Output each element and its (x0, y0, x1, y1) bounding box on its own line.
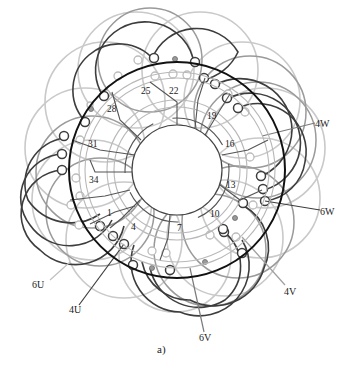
slot-label-34: 34 (89, 176, 99, 186)
slot-label-1: 1 (107, 209, 112, 219)
slot-label-7: 7 (177, 224, 182, 234)
slot-label-10: 10 (210, 210, 220, 220)
terminal-label-6v: 6V (199, 333, 211, 343)
rotor-bore (132, 125, 222, 215)
slot-label-31: 31 (88, 140, 98, 150)
figure-caption: a) (157, 344, 166, 355)
slot-label-25: 25 (141, 87, 151, 97)
slot-label-22: 22 (169, 87, 179, 97)
slot-label-19: 19 (207, 112, 217, 122)
terminal-label-4w: 4W (315, 119, 329, 129)
terminal-label-6w: 6W (320, 207, 334, 217)
terminal-label-4v: 4V (284, 287, 296, 297)
winding-diagram (0, 0, 348, 384)
terminal-label-4u: 4U (69, 305, 81, 315)
slot-label-28: 28 (107, 105, 117, 115)
slot-label-4: 4 (131, 223, 136, 233)
slot-label-16: 16 (225, 140, 235, 150)
terminal-label-6u: 6U (32, 280, 44, 290)
slot-label-13: 13 (226, 181, 236, 191)
